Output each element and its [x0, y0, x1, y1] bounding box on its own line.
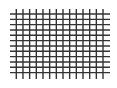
grid-diagram	[0, 0, 117, 88]
background	[0, 0, 117, 88]
